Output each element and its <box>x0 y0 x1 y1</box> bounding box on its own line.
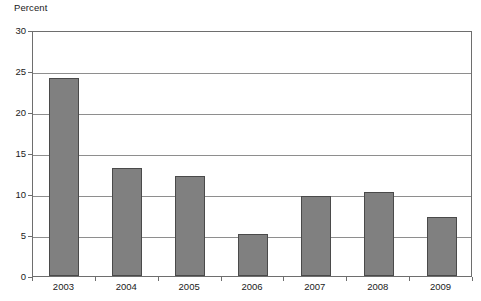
x-axis-tick-labels: 2003200420052006200720082009 <box>32 281 472 297</box>
bar <box>49 78 79 276</box>
x-axis-tick <box>472 277 473 281</box>
x-axis-tick-label: 2009 <box>430 281 451 292</box>
y-axis-tick-label: 30 <box>15 26 26 36</box>
bar <box>175 176 205 276</box>
x-axis-tick-label: 2005 <box>179 281 200 292</box>
x-axis-tick-label: 2004 <box>116 281 137 292</box>
bar <box>238 234 268 276</box>
bars-container <box>33 32 471 276</box>
bar-chart: Percent 051015202530 2003200420052006200… <box>0 0 481 301</box>
bar <box>427 217 457 276</box>
y-axis-tick-labels: 051015202530 <box>0 31 26 277</box>
x-axis-tick-label: 2006 <box>241 281 262 292</box>
y-axis-tick-label: 10 <box>15 190 26 200</box>
x-axis-tick-label: 2007 <box>304 281 325 292</box>
bar <box>112 168 142 276</box>
x-axis-tick-label: 2003 <box>53 281 74 292</box>
y-axis-tick-label: 25 <box>15 67 26 77</box>
x-axis-tick-label: 2008 <box>367 281 388 292</box>
plot-area <box>32 31 472 277</box>
y-axis-tick-label: 20 <box>15 108 26 118</box>
y-axis-title: Percent <box>14 2 47 13</box>
bar <box>364 192 394 276</box>
bar <box>301 196 331 276</box>
y-axis-tick-label: 15 <box>15 149 26 159</box>
